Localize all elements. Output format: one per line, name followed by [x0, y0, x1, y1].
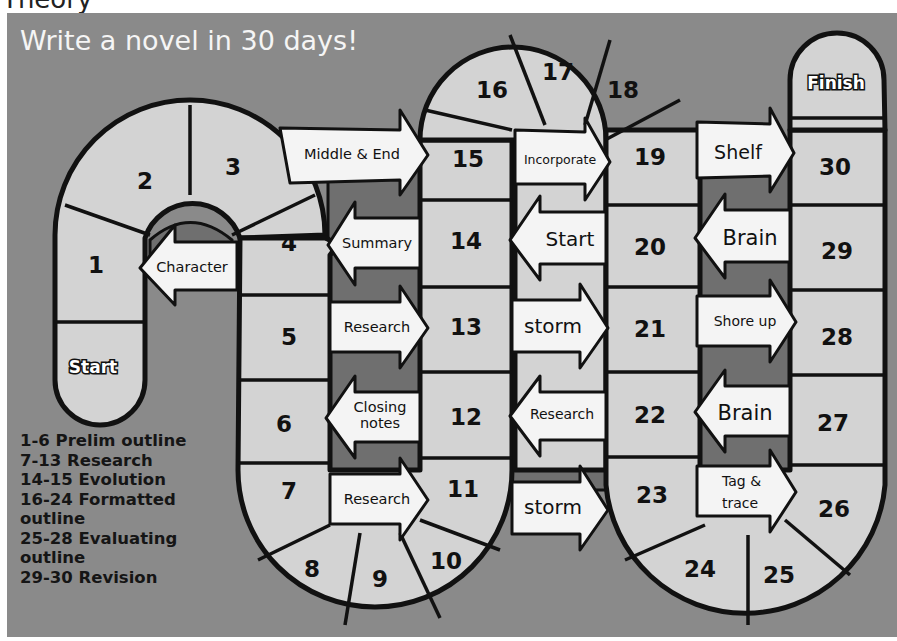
tile-25: 25 — [763, 562, 795, 588]
tile-1: 1 — [88, 252, 104, 278]
tile-10: 10 — [430, 548, 462, 574]
tile-3: 3 — [225, 154, 241, 180]
arrow-label: Shore up — [714, 313, 777, 329]
tile-5: 5 — [281, 324, 297, 350]
arrow-label: Shelf — [714, 141, 763, 163]
legend-item: 29-30 Revision — [20, 568, 186, 588]
arrow-label: Research — [344, 491, 411, 507]
legend-item: 16-24 Formatted — [20, 490, 186, 510]
tile-24: 24 — [684, 556, 716, 582]
legend-item: outline — [20, 548, 186, 568]
tile-6: 6 — [276, 411, 292, 437]
arrow-label: Brain — [722, 226, 777, 250]
tile-13: 13 — [450, 314, 482, 340]
legend-item: 1-6 Prelim outline — [20, 431, 186, 451]
start-label: Start — [69, 357, 117, 377]
tile-17: 17 — [542, 59, 574, 85]
tile-20: 20 — [634, 234, 666, 260]
tile-8: 8 — [304, 556, 320, 582]
tile-2: 2 — [137, 168, 153, 194]
arrow-label: Closing — [353, 399, 406, 415]
tile-19: 19 — [634, 144, 666, 170]
tile-4: 4 — [281, 230, 297, 256]
arrow-label: Summary — [342, 235, 412, 251]
arrow-label: storm — [524, 495, 582, 519]
phase-legend: 1-6 Prelim outline 7-13 Research 14-15 E… — [20, 431, 186, 587]
finish-label: Finish — [807, 73, 865, 93]
legend-item: 25-28 Evaluating — [20, 529, 186, 549]
tile-18: 18 — [607, 77, 639, 103]
tile-29: 29 — [821, 238, 853, 264]
tile-28: 28 — [821, 324, 853, 350]
board-headline: Write a novel in 30 days! — [20, 25, 358, 56]
legend-item: 7-13 Research — [20, 451, 186, 471]
arrow-label: Tag & — [721, 473, 761, 489]
arrow-label: trace — [722, 495, 758, 511]
tile-7: 7 — [281, 478, 297, 504]
tile-16: 16 — [476, 77, 508, 103]
arrow-label: Character — [156, 259, 228, 275]
arrow-label: Brain — [717, 401, 772, 425]
tile-11: 11 — [447, 476, 479, 502]
tile-14: 14 — [450, 228, 482, 254]
tile-15: 15 — [452, 146, 484, 172]
tile-9: 9 — [372, 566, 388, 592]
tile-22: 22 — [634, 402, 666, 428]
arrow-label: storm — [524, 314, 582, 338]
tile-26: 26 — [818, 496, 850, 522]
legend-item: 14-15 Evolution — [20, 470, 186, 490]
arrow-label: Research — [530, 406, 594, 422]
tile-12: 12 — [450, 404, 482, 430]
tile-27: 27 — [817, 410, 849, 436]
tile-30: 30 — [819, 154, 851, 180]
arrow-label: Middle & End — [304, 146, 400, 162]
arrow-label: Research — [344, 319, 411, 335]
arrow-label: Incorporate — [524, 152, 597, 167]
legend-item: outline — [20, 509, 186, 529]
arrow-label: notes — [360, 415, 400, 431]
tile-21: 21 — [634, 316, 666, 342]
tile-23: 23 — [636, 482, 668, 508]
arrow-label: Start — [546, 227, 595, 251]
